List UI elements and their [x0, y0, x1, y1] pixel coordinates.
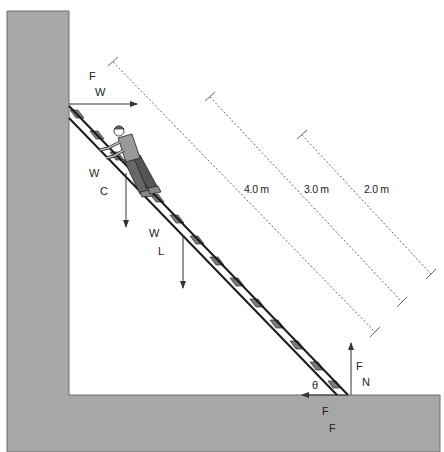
dimension-label-4m: 4.0 m: [244, 183, 269, 195]
wall-force-symbol: F: [89, 70, 96, 82]
ladder-rail-upper: [69, 106, 348, 395]
ladder-weight-subscript: L: [158, 245, 164, 257]
angle-theta-label: θ: [312, 379, 318, 391]
wall-and-floor: [7, 11, 440, 452]
normal-force-symbol: F: [356, 360, 363, 372]
wall-force-subscript: W: [95, 86, 106, 98]
dimension-line-3m: [205, 92, 407, 307]
ladder-weight-symbol: W: [149, 227, 160, 239]
friction-force-subscript: F: [329, 422, 336, 434]
normal-force-subscript: N: [362, 376, 370, 388]
dimension-label-2m: 2.0 m: [364, 183, 389, 195]
ladder: [69, 106, 348, 395]
ladder-statics-diagram: 4.0 m 3.0 m 2.0 m: [0, 0, 444, 452]
dimension-line-2m: [297, 130, 436, 279]
friction-force-symbol: F: [322, 405, 329, 417]
ladder-rail-lower: [69, 118, 337, 395]
climber-weight-subscript: C: [100, 185, 108, 197]
dimension-label-3m: 3.0 m: [304, 183, 329, 195]
climber-figure: [100, 126, 161, 197]
dimension-line-4m: [108, 57, 380, 337]
climber-weight-symbol: W: [89, 167, 100, 179]
